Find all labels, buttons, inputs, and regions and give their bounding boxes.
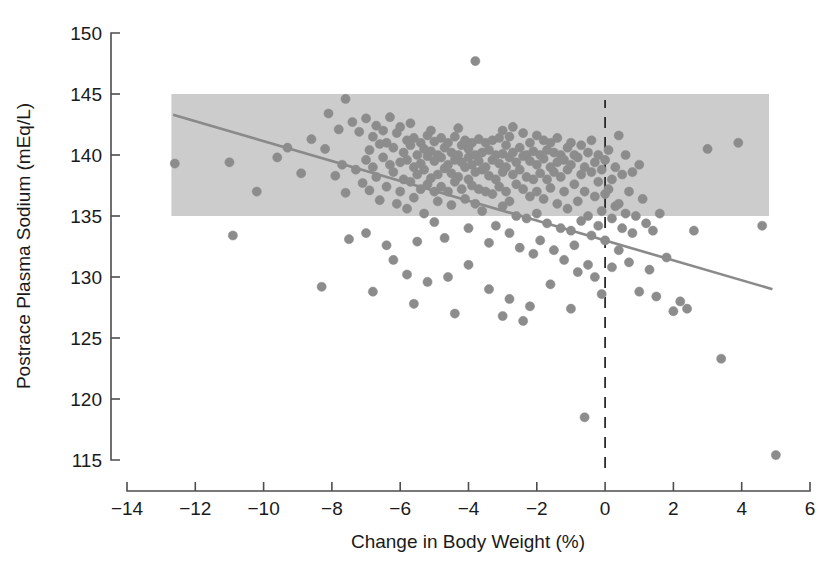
data-point [273, 153, 282, 162]
data-point [392, 199, 401, 208]
data-point [338, 160, 347, 169]
data-point [484, 238, 493, 247]
data-point [594, 221, 603, 230]
data-point [406, 119, 415, 128]
x-axis-tick-label: −14 [111, 498, 144, 519]
data-point [583, 211, 592, 220]
data-point [618, 170, 627, 179]
data-point [443, 187, 452, 196]
data-point [583, 260, 592, 269]
data-point [539, 194, 548, 203]
x-axis-label: Change in Body Weight (%) [351, 531, 585, 552]
data-point [464, 224, 473, 233]
data-point [587, 231, 596, 240]
data-point [228, 231, 237, 240]
data-point [361, 228, 370, 237]
data-point [252, 187, 261, 196]
data-point [402, 204, 411, 213]
data-point [556, 224, 565, 233]
data-point [556, 172, 565, 181]
data-point [734, 138, 743, 147]
data-point [437, 153, 446, 162]
data-point [611, 163, 620, 172]
data-point [604, 185, 613, 194]
data-point [423, 277, 432, 286]
data-point [402, 155, 411, 164]
x-axis-tick-label: −8 [321, 498, 343, 519]
data-point [577, 141, 586, 150]
data-point [464, 260, 473, 269]
data-point [553, 133, 562, 142]
data-point [618, 224, 627, 233]
data-point [522, 214, 531, 223]
y-axis-tick-label: 115 [72, 450, 102, 471]
x-axis-tick-label: 4 [736, 498, 747, 519]
data-point [170, 159, 179, 168]
data-point [488, 189, 497, 198]
x-axis-tick-label: 2 [668, 498, 679, 519]
data-point [580, 187, 589, 196]
data-point [594, 177, 603, 186]
data-point [553, 199, 562, 208]
data-point [689, 226, 698, 235]
scatter-plot-figure: −14−12−10−8−6−4−20246 115120125130135140… [0, 0, 836, 582]
data-point [505, 294, 514, 303]
data-point [525, 138, 534, 147]
data-point [635, 160, 644, 169]
data-point [566, 226, 575, 235]
data-point [317, 282, 326, 291]
data-point [361, 155, 370, 164]
data-point [515, 143, 524, 152]
data-point [525, 302, 534, 311]
data-point [597, 207, 606, 216]
data-point [396, 187, 405, 196]
data-point [631, 211, 640, 220]
data-point [532, 187, 541, 196]
plot-background [0, 0, 836, 582]
data-point [382, 182, 391, 191]
data-point [580, 413, 589, 422]
data-point [341, 188, 350, 197]
data-point [491, 221, 500, 230]
data-point [607, 263, 616, 272]
data-point [454, 124, 463, 133]
data-point [433, 197, 442, 206]
data-point [648, 226, 657, 235]
data-point [457, 185, 466, 194]
data-point [460, 194, 469, 203]
x-axis-tick-label: −12 [179, 498, 211, 519]
data-point [604, 146, 613, 155]
data-point [546, 183, 555, 192]
data-point [385, 113, 394, 122]
data-point [621, 209, 630, 218]
data-point [402, 270, 411, 279]
data-point [587, 167, 596, 176]
data-point [614, 246, 623, 255]
data-point [566, 138, 575, 147]
data-point [344, 235, 353, 244]
data-point [420, 209, 429, 218]
data-point [501, 141, 510, 150]
data-point [758, 221, 767, 230]
data-point [597, 165, 606, 174]
data-point [566, 304, 575, 313]
data-point [406, 177, 415, 186]
data-point [484, 285, 493, 294]
data-point [368, 163, 377, 172]
data-point [566, 160, 575, 169]
data-point [471, 56, 480, 65]
data-point [573, 153, 582, 162]
data-point [389, 255, 398, 264]
data-point [570, 180, 579, 189]
data-point [355, 127, 364, 136]
x-axis-tick-label: 6 [805, 498, 816, 519]
data-point [501, 163, 510, 172]
data-point [645, 265, 654, 274]
data-point [365, 186, 374, 195]
y-axis-label: Postrace Plasma Sodium (mEq/L) [13, 103, 34, 389]
data-point [348, 117, 357, 126]
data-point [505, 132, 514, 141]
data-point [382, 241, 391, 250]
data-point [320, 144, 329, 153]
data-point [505, 228, 514, 237]
